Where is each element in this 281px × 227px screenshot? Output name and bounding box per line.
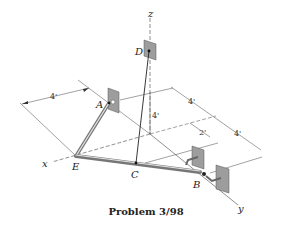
- axis-label-x: x: [42, 158, 48, 169]
- point-b: [202, 172, 206, 176]
- axis-label-y: y: [237, 203, 244, 214]
- dim-right-lower: 4': [234, 129, 241, 138]
- bearing-a: [111, 100, 115, 104]
- offset-extension-line: [145, 143, 218, 163]
- right-dim-line: [171, 87, 261, 150]
- point-label-b: B: [192, 179, 200, 190]
- point-c: [135, 162, 138, 165]
- problem-diagram: z x y D A E C B 4' 4' 4' 2' 4' Problem 3…: [0, 0, 281, 227]
- right-extension-line-top: [120, 88, 173, 100]
- point-a: [108, 102, 110, 104]
- dim-left-width: 4': [50, 92, 57, 101]
- left-extension-line: [20, 103, 76, 156]
- cable-cd: [136, 51, 149, 163]
- point-label-a: A: [95, 99, 103, 110]
- point-label-d: D: [134, 46, 143, 57]
- dim-height-d: 4': [152, 111, 159, 120]
- rod-ae-highlight: [76, 103, 109, 156]
- figure-title: Problem 3/98: [108, 206, 183, 217]
- point-d: [148, 50, 151, 53]
- arrow-icon: [22, 101, 28, 104]
- point-label-e: E: [71, 161, 80, 172]
- point-label-c: C: [131, 169, 139, 180]
- plate-d: [144, 40, 156, 60]
- arrow-icon: [83, 88, 89, 92]
- dim-right-offset: 2': [199, 128, 206, 137]
- axis-label-z: z: [147, 8, 154, 19]
- dim-right-upper: 4': [188, 97, 195, 106]
